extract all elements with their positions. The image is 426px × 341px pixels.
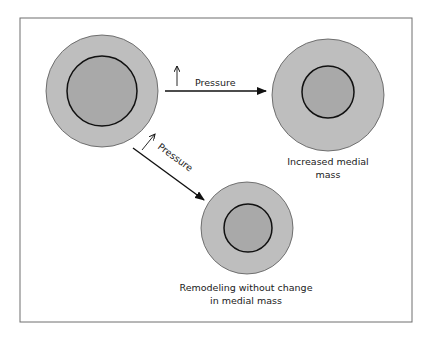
pressure-label: Pressure — [195, 77, 236, 88]
vessel-increased-medial-mass: Increased medial mass — [272, 39, 384, 180]
caption-line-1: Increased medial — [287, 156, 368, 167]
caption-line-1: Remodeling without change — [179, 282, 312, 293]
inner-lumen — [67, 56, 137, 126]
caption-line-2: mass — [316, 169, 341, 180]
inner-lumen — [224, 204, 272, 252]
vessel-original — [46, 35, 158, 147]
inner-lumen — [302, 66, 354, 118]
caption-line-2: in medial mass — [210, 295, 282, 306]
remodeling-diagram: Increased medial mass Remodeling without… — [0, 0, 426, 341]
